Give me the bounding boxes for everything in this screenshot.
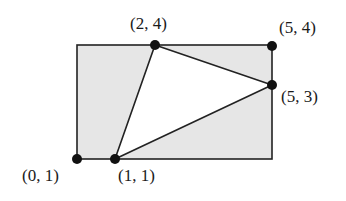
- point-dot-5-3: [267, 80, 277, 90]
- geometry-diagram: (2, 4) (5, 4) (5, 3) (0, 1) (1, 1): [0, 0, 346, 201]
- point-dot-5-4: [267, 41, 277, 51]
- point-label-1-1: (1, 1): [118, 166, 155, 185]
- point-label-2-4: (2, 4): [130, 14, 167, 33]
- diagram-svg: (2, 4) (5, 4) (5, 3) (0, 1) (1, 1): [0, 0, 346, 201]
- point-label-0-1: (0, 1): [22, 166, 59, 185]
- point-dot-2-4: [150, 40, 160, 50]
- point-label-5-3: (5, 3): [281, 87, 318, 106]
- point-label-5-4: (5, 4): [279, 18, 316, 37]
- point-dot-1-1: [110, 154, 120, 164]
- point-dot-0-1: [72, 154, 82, 164]
